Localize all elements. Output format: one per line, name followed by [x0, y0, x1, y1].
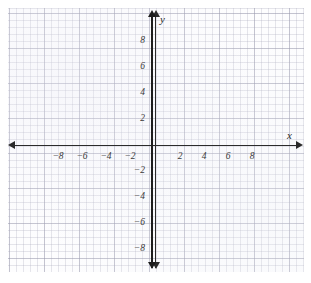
y-tick-label: −2 [129, 166, 145, 176]
y-axis [155, 16, 156, 268]
x-tick-label: 6 [226, 152, 231, 162]
x-tick-label: −2 [124, 152, 135, 162]
x-tick-label: 2 [178, 152, 183, 162]
x-tick-label: 8 [250, 152, 255, 162]
y-tick-label: 6 [131, 62, 145, 72]
y-tick-label: 2 [131, 114, 145, 124]
plotted-line-top-arrow-icon [148, 10, 156, 17]
x-tick-label: 4 [202, 152, 207, 162]
y-tick-label: −6 [129, 218, 145, 228]
x-tick-label: −4 [100, 152, 111, 162]
y-axis-label: y [160, 14, 165, 25]
graph-figure: x y −8 −6 −4 −2 2 4 6 8 8 6 4 2 −2 −4 −6… [0, 0, 311, 283]
y-tick-label: −4 [129, 192, 145, 202]
x-axis-right-arrow-icon [296, 141, 303, 149]
y-tick-label: −8 [129, 244, 145, 254]
x-tick-label: −8 [52, 152, 63, 162]
plotted-line-bottom-arrow-icon [148, 262, 156, 269]
plotted-vertical-line [151, 16, 153, 268]
x-axis-left-arrow-icon [8, 141, 15, 149]
x-axis-label: x [287, 130, 292, 141]
y-tick-label: 8 [131, 36, 145, 46]
x-tick-label: −6 [76, 152, 87, 162]
y-tick-label: 4 [131, 88, 145, 98]
